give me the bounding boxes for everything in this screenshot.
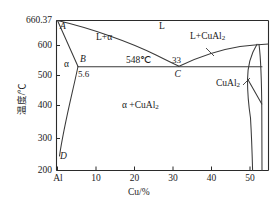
point-label-a: A [60, 22, 66, 32]
eutectic-temperature-label: 548℃ [126, 56, 151, 66]
phase-label-alpha-plus-cual2: α +CuAl2 [122, 101, 159, 111]
phase-label-liquid: L [159, 22, 165, 32]
y-tick-label-600: 600 [0, 41, 52, 51]
alpha-cual2-subscript: 2 [155, 103, 159, 111]
alpha-cual2-text: α +CuAl [122, 100, 155, 110]
cual2-internal-tie [248, 79, 262, 104]
point-label-b: B [80, 55, 86, 65]
solvus-alpha-curve [60, 67, 79, 157]
point-label-c: C [175, 70, 181, 80]
y-axis-title: 温度/℃ [14, 69, 28, 129]
cual2-text: CuAl [216, 78, 237, 88]
l-cual2-text: L+CuAl [190, 31, 222, 41]
phase-label-alpha: α [64, 60, 69, 70]
l-cual2-subscript: 2 [222, 34, 226, 42]
cual2-subscript: 2 [237, 81, 241, 89]
point-label-d: D [60, 152, 67, 162]
phase-label-liquid-plus-cual2: L+CuAl2 [190, 32, 225, 42]
cual2-stoichiometric-line [251, 118, 253, 171]
x-tick-label-50: 50 [236, 174, 264, 184]
phase-diagram-figure: 660.37 600 500 400 300 200 温度/℃ Al 10 20… [0, 0, 279, 204]
x-tick-label-20: 20 [121, 174, 149, 184]
cual2-right-boundary [259, 44, 262, 170]
phase-label-cual2: CuAl2 [216, 79, 240, 89]
max-solubility-label: 5.6 [78, 70, 89, 79]
x-tick-marks [58, 167, 251, 171]
x-tick-label-40: 40 [198, 174, 226, 184]
x-tick-label-10: 10 [82, 174, 110, 184]
x-axis-title: Cu/% [128, 188, 150, 198]
plot-frame [57, 21, 269, 171]
x-tick-label-30: 30 [159, 174, 187, 184]
x-tick-label-al: Al [44, 174, 72, 184]
eutectic-composition-label: 33 [172, 56, 181, 65]
y-tick-label-300: 300 [0, 134, 52, 144]
y-tick-label-660: 660.37 [0, 16, 52, 26]
phase-label-liquid-plus-alpha: L+α [96, 33, 112, 43]
